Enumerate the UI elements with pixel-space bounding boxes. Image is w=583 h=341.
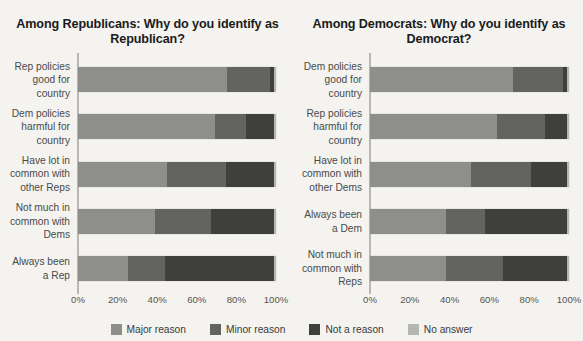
x-tick: 0% [363,294,377,305]
chart-panels: Among Republicans: Why do you identify a… [0,11,583,307]
category-label: Always been a Rep [0,255,70,282]
segment-not-a-reason [545,114,567,139]
legend-swatch-minor-reason [210,324,221,335]
segment-not-a-reason [165,256,274,281]
segment-no-answer [567,114,569,139]
stacked-bar[interactable] [78,209,276,234]
bar-row[interactable]: Have lot in common with other Dems [370,150,569,197]
stacked-bar[interactable] [370,162,569,187]
category-label: Not much in common with Dems [0,201,70,241]
plot-area-republicans: Rep policies good for country Dem polici… [78,56,276,292]
panel-title-republicans: Among Republicans: Why do you identify a… [14,17,281,48]
legend-item-major-reason[interactable]: Major reason [111,324,186,335]
bar-rows-republicans: Rep policies good for country Dem polici… [78,56,276,292]
bar-row[interactable]: Have lot in common with other Reps [78,150,276,197]
stacked-bar[interactable] [370,67,569,92]
x-axis-republicans: 0% 20% 40% 60% 80% 100% [78,294,276,310]
segment-not-a-reason [485,209,567,234]
legend-label: No answer [424,324,473,335]
category-label: Always been a Dem [284,208,362,235]
bar-row[interactable]: Not much in common with Dems [78,198,276,245]
segment-minor-reason [155,209,210,234]
legend-item-not-a-reason[interactable]: Not a reason [309,324,383,335]
stacked-bar[interactable] [78,67,276,92]
legend-swatch-not-a-reason [309,324,320,335]
chart-panel-democrats: Among Democrats: Why do you identify as … [291,11,583,307]
segment-major-reason [78,67,227,92]
segment-major-reason [370,209,446,234]
segment-no-answer [274,114,276,139]
plot-area-democrats: Dem policies good for country Rep polici… [370,56,569,292]
segment-no-answer [567,162,569,187]
segment-minor-reason [128,256,166,281]
stacked-bar[interactable] [370,256,569,281]
chart-legend: Major reason Minor reason Not a reason N… [0,324,583,335]
segment-not-a-reason [246,114,274,139]
segment-minor-reason [446,209,486,234]
segment-major-reason [370,256,446,281]
segment-major-reason [370,162,471,187]
segment-major-reason [370,67,513,92]
bar-row[interactable]: Not much in common with Reps [370,245,569,292]
segment-minor-reason [446,256,504,281]
x-axis-democrats: 0% 20% 40% 60% 80% 100% [370,294,569,310]
x-tick: 60% [187,294,206,305]
bar-row[interactable]: Rep policies good for country [78,56,276,103]
segment-major-reason [78,209,155,234]
segment-major-reason [78,162,167,187]
legend-label: Minor reason [226,324,285,335]
x-tick: 20% [400,294,419,305]
bar-row[interactable]: Dem policies good for country [370,56,569,103]
stacked-bar[interactable] [78,256,276,281]
stacked-bar[interactable] [370,209,569,234]
segment-major-reason [370,114,497,139]
segment-no-answer [567,256,569,281]
segment-minor-reason [471,162,531,187]
segment-no-answer [567,209,569,234]
segment-minor-reason [227,67,271,92]
legend-swatch-no-answer [408,324,419,335]
legend-label: Not a reason [325,324,383,335]
segment-major-reason [78,256,128,281]
stacked-bar[interactable] [78,162,276,187]
x-tick: 40% [440,294,459,305]
stacked-bar[interactable] [370,114,569,139]
category-label: Dem policies harmful for country [0,107,70,147]
segment-minor-reason [497,114,545,139]
x-tick: 20% [108,294,127,305]
chart-panel-republicans: Among Republicans: Why do you identify a… [0,11,291,307]
bar-rows-democrats: Dem policies good for country Rep polici… [370,56,569,292]
panel-title-democrats: Among Democrats: Why do you identify as … [305,17,573,48]
legend-item-no-answer[interactable]: No answer [408,324,473,335]
segment-not-a-reason [503,256,567,281]
x-tick: 0% [71,294,85,305]
segment-minor-reason [167,162,226,187]
x-tick: 80% [227,294,246,305]
x-tick: 80% [520,294,539,305]
bar-row[interactable]: Always been a Rep [78,245,276,292]
x-tick: 100% [264,294,289,305]
segment-no-answer [274,256,276,281]
category-label: Rep policies harmful for country [284,107,362,147]
legend-item-minor-reason[interactable]: Minor reason [210,324,285,335]
bar-row[interactable]: Always been a Dem [370,198,569,245]
segment-no-answer [274,209,276,234]
segment-minor-reason [513,67,563,92]
bar-row[interactable]: Rep policies harmful for country [370,103,569,150]
stacked-bar[interactable] [78,114,276,139]
segment-no-answer [274,67,276,92]
segment-not-a-reason [531,162,567,187]
x-tick: 100% [557,294,582,305]
category-label: Dem policies good for country [284,59,362,99]
cropped-header-text [0,0,583,11]
chart-figure: Among Republicans: Why do you identify a… [0,0,583,341]
category-label: Have lot in common with other Reps [0,154,70,194]
x-tick: 40% [148,294,167,305]
segment-not-a-reason [226,162,274,187]
category-label: Have lot in common with other Dems [284,154,362,194]
legend-swatch-major-reason [111,324,122,335]
segment-not-a-reason [211,209,274,234]
bar-row[interactable]: Dem policies harmful for country [78,103,276,150]
segment-no-answer [274,162,276,187]
category-label: Rep policies good for country [0,59,70,99]
